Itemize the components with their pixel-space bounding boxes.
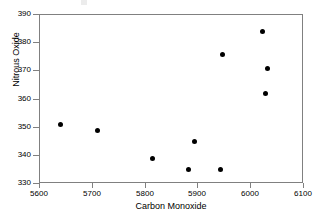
x-axis-tick [92, 183, 93, 188]
data-point [95, 128, 100, 133]
x-axis-tick [197, 183, 198, 188]
data-point [218, 167, 223, 172]
y-axis-tick-label: 380 [0, 38, 31, 46]
x-axis-tick [145, 183, 146, 188]
data-point [150, 156, 155, 161]
data-point [260, 29, 265, 34]
data-point [263, 91, 268, 96]
x-axis-tick-label: 5900 [177, 190, 217, 198]
y-axis-tick-label: 390 [0, 10, 31, 18]
y-axis-tick-label: 350 [0, 123, 31, 131]
x-axis-tick [303, 183, 304, 188]
x-axis-tick-label: 5600 [19, 190, 59, 198]
data-point [220, 52, 225, 57]
data-point [58, 122, 63, 127]
y-axis-tick-label: 370 [0, 66, 31, 74]
data-point [265, 66, 270, 71]
x-axis-tick-label: 6000 [230, 190, 270, 198]
x-axis-tick-label: 5700 [72, 190, 112, 198]
x-axis-tick [250, 183, 251, 188]
plot-area [39, 14, 303, 183]
x-axis-tick-label: 6100 [283, 190, 317, 198]
y-axis-tick-label: 360 [0, 95, 31, 103]
x-axis-tick-label: 5800 [125, 190, 165, 198]
y-axis-tick-label: 340 [0, 151, 31, 159]
data-point [192, 139, 197, 144]
x-axis-tick [39, 183, 40, 188]
y-axis-tick-label: 330 [0, 179, 31, 187]
image-artifact [81, 0, 87, 5]
x-axis-title: Carbon Monoxide [39, 202, 303, 211]
scatter-plot-figure: Nitrous Oxide 330340350360370380390 5600… [0, 0, 317, 217]
data-point [186, 167, 191, 172]
